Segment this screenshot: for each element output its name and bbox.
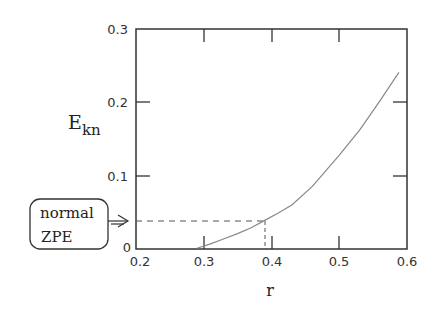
- callout-line-2: ZPE: [41, 228, 72, 246]
- y-ticks-left: [136, 102, 150, 176]
- x-tick-label: 0.2: [130, 254, 151, 269]
- y-axis-label-main: E: [68, 111, 82, 133]
- y-tick-label: 0.2: [107, 95, 128, 110]
- data-curve: [197, 72, 399, 248]
- arrow-icon: [108, 215, 128, 227]
- plot-frame: [136, 29, 407, 249]
- x-axis-label: r: [266, 281, 274, 300]
- x-tick-label: 0.6: [397, 254, 418, 269]
- chart: 0.3 0.2 0.1 0 0.2 0.3 0.4 0.5 0.6 r Ekn …: [0, 0, 439, 317]
- callout-line-1: normal: [40, 204, 94, 222]
- y-axis-label-sub: kn: [82, 121, 101, 139]
- x-ticks-top: [204, 29, 339, 42]
- y-axis-label: Ekn: [68, 111, 101, 139]
- x-tick-label: 0.3: [194, 254, 215, 269]
- y-tick-label: 0.3: [107, 22, 128, 37]
- y-ticks-right: [393, 102, 407, 176]
- x-ticks-bottom: [204, 236, 339, 249]
- y-tick-label: 0.1: [107, 169, 128, 184]
- x-tick-label: 0.4: [262, 254, 283, 269]
- x-tick-label: 0.5: [329, 254, 350, 269]
- y-tick-label: 0: [123, 240, 131, 255]
